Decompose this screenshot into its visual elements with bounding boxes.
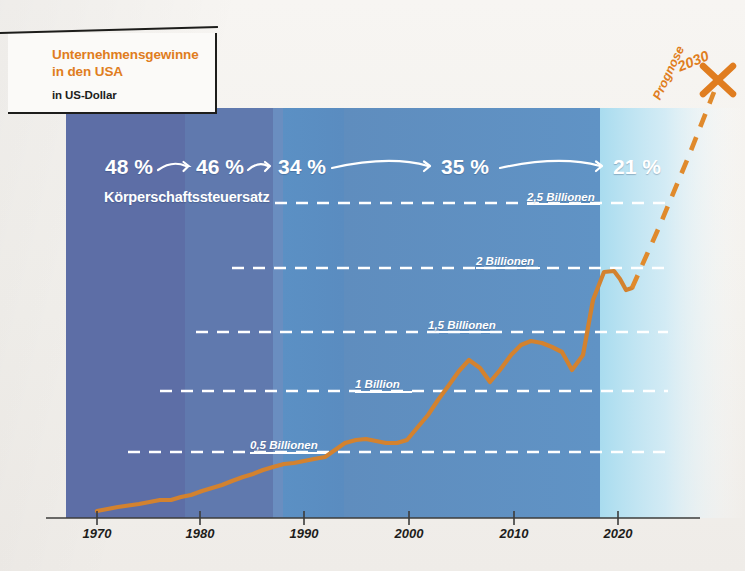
tax-rate-label-1: 48 % [105,155,153,179]
title-card: Unternehmensgewinne in den USA in US-Dol… [8,33,217,114]
gridline-label-1-5: 1,5 Billionen [428,319,496,331]
tax-rate-label-4: 35 % [441,155,489,179]
card-title: Unternehmensgewinne in den USA [52,46,215,81]
gridline-label-2: 2 Billionen [476,255,534,267]
tax-rate-label-5: 21 % [613,155,661,179]
x-axis-label-1980: 1980 [186,526,215,541]
x-axis-label-2020: 2020 [604,526,633,541]
card-subtitle: in US-Dollar [52,89,215,101]
x-axis-label-2010: 2010 [500,526,529,541]
infographic-canvas: 48 % 46 % 34 % 35 % 21 % Körperschaftsst… [0,0,745,571]
card-title-line2: in den USA [52,64,123,79]
gridline-label-2-5: 2,5 Billionen [527,191,595,203]
tax-rate-caption: Körperschaftssteuersatz [104,189,269,205]
x-axis-label-1990: 1990 [290,526,319,541]
card-title-line1: Unternehmensgewinne [52,47,199,62]
x-axis-label-1970: 1970 [83,526,112,541]
tax-rate-label-3: 34 % [278,155,326,179]
x-axis-label-2000: 2000 [395,526,424,541]
tax-rate-label-2: 46 % [196,155,244,179]
gridline-label-0-5: 0,5 Billionen [250,439,318,451]
forecast-endpoint-x-marker [703,66,733,94]
gridline-label-1: 1 Billion [355,378,400,390]
